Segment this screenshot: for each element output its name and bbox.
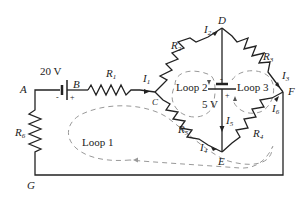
circuit-diagram: A B C D E F G 20 V - + 5 V - + R1 R2 R3 … — [0, 0, 308, 198]
r6-label: R6 — [14, 126, 26, 140]
r3-label: R3 — [262, 50, 274, 64]
battery-20v-label: 20 V — [40, 65, 62, 77]
i2-label: I2 — [203, 23, 212, 37]
battery-5v-pos: + — [225, 91, 230, 100]
loop-1-label: Loop 1 — [82, 136, 113, 148]
node-f-label: F — [287, 85, 295, 97]
r1-label: R1 — [105, 67, 116, 81]
arrow-i1-icon — [144, 89, 150, 94]
node-a-label: A — [19, 83, 27, 95]
battery-20v-pos: + — [70, 93, 75, 102]
r4-label: R4 — [252, 127, 264, 141]
loop-2-label: Loop 2 — [176, 81, 207, 93]
node-c-label: C — [152, 97, 159, 107]
wire-f-g — [35, 92, 283, 175]
battery-20v-neg: - — [56, 93, 59, 102]
i5-label: I5 — [225, 114, 234, 128]
resistor-r6 — [29, 107, 41, 158]
loop-2-arrow-icon — [207, 80, 211, 85]
node-g-label: G — [27, 179, 35, 191]
arrow-i5-icon — [220, 126, 225, 132]
r5-label: R5 — [177, 123, 189, 137]
node-b-label: B — [73, 78, 80, 90]
loop-1-arrow-icon — [133, 158, 138, 163]
battery-5v-neg: - — [220, 75, 223, 84]
i4-label: I4 — [199, 141, 208, 155]
battery-5v-label: 5 V — [202, 98, 218, 110]
loop-3-label: Loop 3 — [237, 81, 269, 93]
i6-label: I6 — [271, 102, 280, 116]
resistor-r1 — [88, 85, 140, 95]
node-e-label: E — [217, 155, 225, 167]
node-d-label: D — [217, 14, 226, 26]
loop-2-path — [172, 71, 215, 117]
i1-label: I1 — [142, 72, 150, 86]
loop-3-arrow-icon — [233, 96, 237, 101]
i3-label: I3 — [281, 69, 290, 83]
